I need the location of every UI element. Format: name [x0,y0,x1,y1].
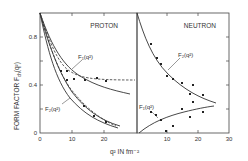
y-axis-title: FORM FACTOR Fch(q²) [13,62,22,130]
x-tick-label: 0 [38,136,42,142]
neutron-f2-label: F₂(q²) [178,52,193,58]
x-tick-label: 10 [69,136,76,142]
neutron-f1-label: F₁(q²) [139,104,154,110]
proton-title: PROTON [90,22,118,29]
neutron-curves [137,13,216,133]
neutron-panel [137,13,229,133]
x-tick-label: 20 [195,136,202,142]
y-tick-label: 0.8 [29,34,38,40]
neutron-data-points [150,43,204,132]
axis-ticks [40,13,229,133]
y-tick-label: 0.4 [29,82,38,88]
y-tick-label: 0 [34,130,38,136]
neutron-title: NEUTRON [184,22,216,29]
proton-f2-label: F₂(q²) [45,106,60,112]
form-factor-figure: 0.8 0.4 0 0 10 20 10 20 30 q² IN fm⁻² FO… [0,0,248,161]
x-tick-label: 20 [101,136,108,142]
x-tick-label: 30 [226,136,233,142]
x-axis-title: q² IN fm⁻² [110,148,140,156]
proton-f1-label: F₁(q²) [78,54,93,60]
x-tick-label: 10 [164,136,171,142]
